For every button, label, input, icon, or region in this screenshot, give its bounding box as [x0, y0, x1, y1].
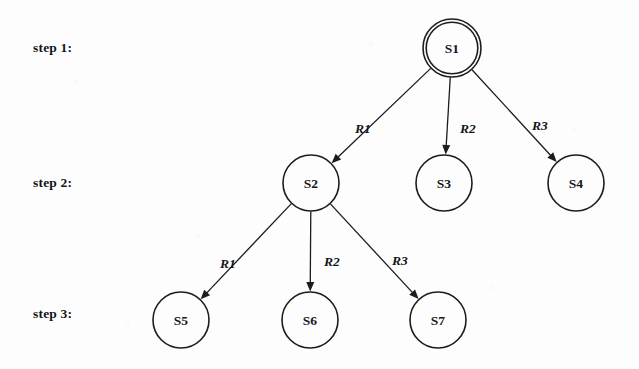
- edge-s1-to-s3: [442, 77, 450, 154]
- node-s4[interactable]: S4: [548, 155, 604, 211]
- edge-label-e3: R3: [531, 118, 548, 133]
- node-s5[interactable]: S5: [153, 292, 209, 348]
- edge-label-e1: R1: [354, 121, 371, 136]
- edge-s2-to-s7: [330, 204, 418, 299]
- node-label-s5: S5: [174, 313, 189, 328]
- edge-s1-to-s2: [332, 68, 431, 163]
- edges-layer: [201, 68, 557, 299]
- node-label-s2: S2: [304, 176, 319, 191]
- tree-graph: S1S2S3S4S5S6S7 R1R2R3R1R2R3: [0, 0, 639, 369]
- node-s2[interactable]: S2: [283, 155, 339, 211]
- nodes-layer: S1S2S3S4S5S6S7: [153, 19, 604, 348]
- node-label-s6: S6: [303, 313, 318, 328]
- node-s3[interactable]: S3: [416, 155, 472, 211]
- diagram-canvas: S1S2S3S4S5S6S7 R1R2R3R1R2R3 step 1:step …: [0, 0, 639, 369]
- edge-s1-to-s4: [472, 70, 557, 162]
- step-label-3: step 3:: [33, 306, 72, 322]
- edge-label-e5: R2: [323, 254, 340, 269]
- edge-label-e6: R3: [391, 253, 408, 268]
- edge-labels-layer: R1R2R3R1R2R3: [219, 118, 548, 271]
- node-s6[interactable]: S6: [282, 292, 338, 348]
- arrowhead-icon: [442, 145, 450, 155]
- node-label-s1: S1: [445, 41, 460, 56]
- node-label-s4: S4: [569, 176, 584, 191]
- edge-label-e2: R2: [459, 121, 476, 136]
- step-label-1: step 1:: [33, 40, 72, 56]
- node-s1[interactable]: S1: [423, 19, 481, 77]
- edge-s2-to-s5: [201, 204, 292, 300]
- node-label-s7: S7: [431, 313, 446, 328]
- node-label-s3: S3: [437, 176, 452, 191]
- edge-s2-to-s6: [306, 212, 314, 292]
- arrowhead-icon: [306, 282, 314, 292]
- node-s7[interactable]: S7: [410, 292, 466, 348]
- step-label-2: step 2:: [33, 175, 72, 191]
- edge-label-e4: R1: [219, 256, 236, 271]
